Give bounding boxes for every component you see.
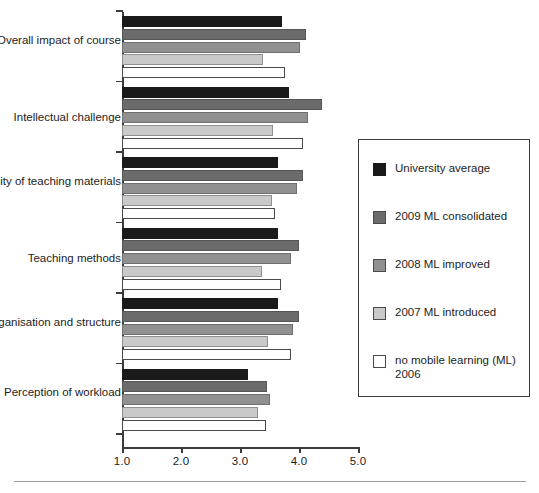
- bar: [122, 138, 303, 149]
- category-label: Perception of workload: [0, 386, 121, 400]
- bar: [122, 228, 278, 239]
- bar: [122, 253, 291, 264]
- legend-item: University average: [373, 162, 490, 176]
- bar: [122, 42, 300, 53]
- bar: [122, 208, 275, 219]
- legend-label: University average: [395, 162, 490, 176]
- bar: [122, 266, 262, 277]
- bar: [122, 16, 282, 27]
- bar: [122, 279, 281, 290]
- x-tick-mark: [240, 447, 242, 453]
- bar: [122, 324, 293, 335]
- y-tick-mark: [116, 10, 123, 12]
- bar: [122, 67, 285, 78]
- y-tick-mark: [116, 151, 123, 153]
- bar: [122, 311, 299, 322]
- bar: [122, 394, 270, 405]
- x-tick-label: 5.0: [338, 455, 378, 467]
- x-tick-label: 1.0: [102, 455, 142, 467]
- legend-swatch: [373, 259, 386, 272]
- bar: [122, 99, 322, 110]
- bar: [122, 54, 263, 65]
- bar: [122, 87, 289, 98]
- x-tick-mark: [299, 447, 301, 453]
- legend-label: no mobile learning (ML) 2006: [395, 354, 516, 381]
- x-tick-mark: [181, 447, 183, 453]
- bar: [122, 381, 267, 392]
- x-tick-mark: [358, 447, 360, 453]
- legend-item: 2008 ML improved: [373, 258, 490, 272]
- x-tick-label: 4.0: [279, 455, 319, 467]
- bar: [122, 170, 303, 181]
- bar: [122, 407, 258, 418]
- y-tick-mark: [116, 363, 123, 365]
- bar: [122, 125, 273, 136]
- bar: [122, 369, 248, 380]
- category-label: Teaching methods: [0, 252, 121, 266]
- category-label: Overall impact of course: [0, 34, 121, 48]
- x-tick-label: 3.0: [220, 455, 260, 467]
- legend: University average2009 ML consolidated20…: [358, 139, 530, 397]
- legend-label: 2007 ML introduced: [395, 306, 496, 320]
- legend-swatch: [373, 211, 386, 224]
- legend-item: 2007 ML introduced: [373, 306, 496, 320]
- bar: [122, 112, 308, 123]
- legend-swatch: [373, 163, 386, 176]
- x-tick-label: 2.0: [161, 455, 201, 467]
- bar: [122, 336, 268, 347]
- y-tick-mark: [116, 81, 123, 83]
- category-label: Quality of teaching materials: [0, 175, 121, 189]
- bar: [122, 298, 278, 309]
- category-label: Organisation and structure: [0, 316, 121, 330]
- legend-label: 2009 ML consolidated: [395, 210, 507, 224]
- legend-item: no mobile learning (ML) 2006: [373, 354, 516, 381]
- bar: [122, 29, 306, 40]
- bar: [122, 349, 291, 360]
- legend-label: 2008 ML improved: [395, 258, 490, 272]
- bar-chart: Overall impact of courseIntellectual cha…: [0, 0, 539, 493]
- bar: [122, 240, 299, 251]
- legend-item: 2009 ML consolidated: [373, 210, 507, 224]
- bar: [122, 183, 297, 194]
- x-tick-mark: [122, 447, 124, 453]
- bar: [122, 157, 278, 168]
- y-tick-mark: [116, 222, 123, 224]
- legend-swatch: [373, 355, 386, 368]
- category-label: Intellectual challenge: [0, 111, 121, 125]
- footer-divider: [14, 481, 526, 482]
- y-tick-mark: [116, 433, 123, 435]
- y-tick-mark: [116, 292, 123, 294]
- legend-swatch: [373, 307, 386, 320]
- bar: [122, 420, 266, 431]
- bar: [122, 195, 272, 206]
